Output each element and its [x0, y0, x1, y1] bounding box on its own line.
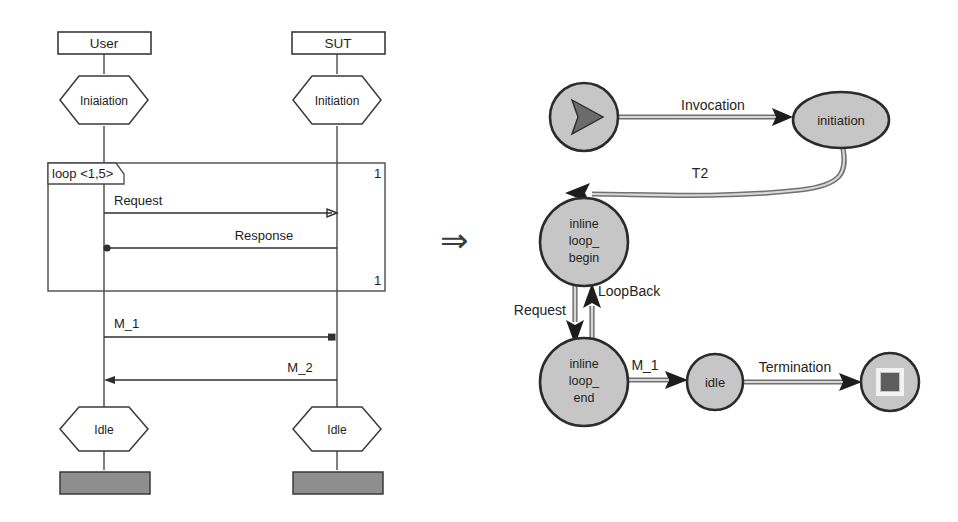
- transition-request[interactable]: [566, 283, 584, 345]
- message-m2-arrowhead: [104, 376, 115, 384]
- transition-loopback-label: LoopBack: [598, 283, 661, 299]
- lifeline-terminator-sut: [293, 472, 383, 494]
- loop-multiplicity-bottom: 1: [374, 273, 381, 288]
- state-node-inline-loop-begin-line1: inline: [569, 217, 598, 231]
- message-m1-arrowhead: [328, 334, 336, 341]
- loop-multiplicity-top: 1: [374, 166, 381, 181]
- stop-square-icon: [881, 373, 899, 391]
- message-m1-label: M_1: [114, 316, 139, 331]
- state-hexagon-sut-initiation-label: Initiation: [315, 94, 360, 108]
- state-node-inline-loop-end-line1: inline: [569, 357, 598, 371]
- transition-termination[interactable]: [742, 373, 862, 391]
- state-node-inline-loop-end-line3: end: [574, 391, 595, 405]
- state-node-inline-loop-begin-line3: begin: [569, 251, 600, 265]
- transition-termination-label: Termination: [759, 359, 831, 375]
- message-response-label: Response: [235, 228, 294, 243]
- lifeline-terminator-user: [60, 472, 150, 494]
- state-node-inline-loop-begin-line2: loop_: [569, 234, 601, 248]
- diagram-canvas: User SUT Iniaiation Initiation loop <1,5…: [0, 0, 958, 522]
- transition-m1[interactable]: [620, 371, 688, 389]
- message-response-terminus-dot: [103, 244, 110, 251]
- lifeline-head-user-label: User: [90, 36, 119, 51]
- loop-fragment-operator-label: loop <1,5>: [52, 166, 113, 181]
- state-node-idle-label: idle: [705, 375, 725, 390]
- transition-invocation-label: Invocation: [681, 97, 745, 113]
- state-hexagon-sut-idle-label: Idle: [327, 423, 347, 437]
- state-hexagon-user-initiation-label: Iniaiation: [80, 94, 128, 108]
- state-node-inline-loop-end-line2: loop_: [569, 374, 601, 388]
- state-node-initiation-label: initiation: [817, 113, 865, 128]
- lifeline-head-sut-label: SUT: [325, 36, 352, 51]
- state-machine-diagram: Invocation T2 Request LoopBack: [514, 83, 919, 426]
- transition-m1-label: M_1: [631, 357, 658, 373]
- sequence-diagram: User SUT Iniaiation Initiation loop <1,5…: [48, 32, 385, 494]
- message-request-label: Request: [114, 193, 163, 208]
- transform-arrow-icon: ⇒: [440, 220, 469, 260]
- transition-m1-arrowhead: [665, 371, 688, 389]
- figure-root: User SUT Iniaiation Initiation loop <1,5…: [0, 0, 958, 522]
- transition-t2-label: T2: [692, 165, 709, 181]
- state-hexagon-user-idle-label: Idle: [94, 423, 114, 437]
- transition-request-label: Request: [514, 302, 566, 318]
- message-m2-label: M_2: [287, 360, 312, 375]
